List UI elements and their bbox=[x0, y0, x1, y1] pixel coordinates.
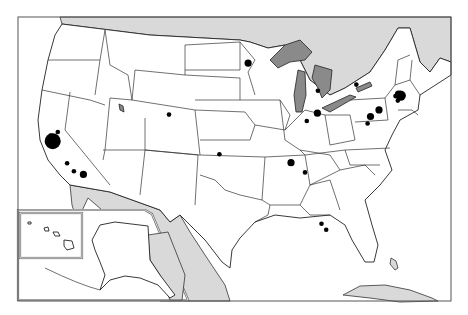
marker-los-angeles bbox=[80, 171, 87, 178]
marker-columbus bbox=[314, 110, 321, 117]
marker-central-ca-coast-1 bbox=[65, 161, 70, 166]
marker-philadelphia bbox=[367, 113, 374, 120]
marker-atlanta bbox=[303, 170, 308, 175]
marker-worcester bbox=[393, 94, 398, 99]
marker-central-ca-coast-2 bbox=[72, 169, 77, 174]
marker-minneapolis bbox=[245, 60, 252, 67]
marker-new-york bbox=[375, 106, 382, 113]
us-map bbox=[0, 0, 468, 315]
marker-baltimore-delaware bbox=[365, 121, 370, 126]
marker-huntsville bbox=[287, 159, 294, 166]
marker-detroit bbox=[316, 88, 321, 93]
marker-rochester bbox=[354, 82, 359, 87]
marker-orlando bbox=[319, 222, 324, 227]
marker-providence bbox=[396, 98, 401, 103]
marker-sacramento bbox=[56, 130, 61, 135]
marker-melbourne-palm-bay bbox=[324, 228, 329, 233]
marker-northern-ca-coast bbox=[48, 133, 53, 138]
bahamas-region bbox=[390, 258, 398, 270]
marker-cincinnati bbox=[305, 119, 310, 124]
cuba-region bbox=[343, 285, 438, 302]
marker-denver bbox=[167, 112, 172, 117]
marker-oklahoma-city bbox=[217, 152, 222, 157]
